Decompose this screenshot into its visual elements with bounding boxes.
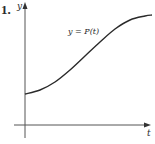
- curve-p-of-t: [25, 15, 152, 94]
- x-axis-arrow-icon: [144, 123, 151, 128]
- chart-plot: [0, 0, 155, 144]
- y-axis-arrow-icon: [23, 2, 28, 9]
